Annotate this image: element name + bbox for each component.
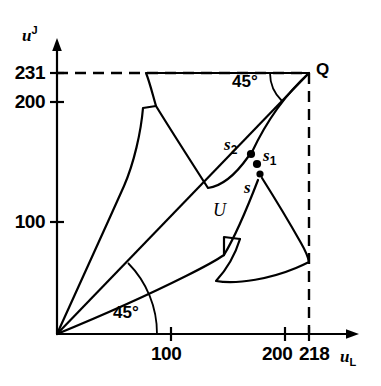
y-tick-label-200: 200 xyxy=(0,91,45,113)
region-upper-right-boundary xyxy=(252,73,309,152)
diagonal-45-line xyxy=(57,73,309,334)
point-label-s: s xyxy=(244,178,251,198)
angle-label-lower: 45° xyxy=(113,303,139,323)
y-tick-label-231: 231 xyxy=(0,62,45,84)
plot-svg xyxy=(0,0,381,386)
point-label-s2: s2 xyxy=(224,135,237,157)
y-axis-label-superscript: J xyxy=(31,24,37,36)
region-lower-right-upper-boundary xyxy=(262,178,309,262)
diagonal-line-group xyxy=(57,73,309,334)
figure-container: uJ uL 231 200 100 100 200 218 Q 45° 45° … xyxy=(0,0,381,386)
angle-label-upper: 45° xyxy=(232,72,258,92)
point-dot-s[interactable] xyxy=(256,170,263,177)
angle-arc-group xyxy=(128,73,282,334)
x-axis-label: uL xyxy=(340,347,356,368)
point-label-s1-base: s xyxy=(263,146,270,165)
point-label-s2-base: s xyxy=(224,135,231,154)
region-lower-left-boundary xyxy=(57,237,240,334)
point-dot-s1[interactable] xyxy=(253,160,261,168)
angle-arc-at-origin xyxy=(128,263,157,334)
angle-arc-at-Q xyxy=(270,73,282,101)
x-tick-label-200: 200 xyxy=(262,343,292,365)
x-axis-label-subscript: L xyxy=(349,356,356,368)
region-label-U: U xyxy=(213,200,226,221)
y-axis-label: uJ xyxy=(22,24,38,46)
axis-group xyxy=(52,38,359,339)
x-tick-label-100: 100 xyxy=(151,343,181,365)
point-label-s-base: s xyxy=(244,178,251,197)
x-tick-label-218: 218 xyxy=(299,343,329,365)
y-axis-arrowhead xyxy=(52,38,62,51)
corner-point-label-Q: Q xyxy=(316,60,329,80)
region-lower-inner-boundary xyxy=(224,180,258,255)
point-dot-s2[interactable] xyxy=(247,150,255,158)
y-tick-label-100: 100 xyxy=(0,211,45,233)
point-label-s1: s1 xyxy=(263,146,276,168)
point-label-s1-subscript: 1 xyxy=(270,154,277,168)
point-label-s2-subscript: 2 xyxy=(231,143,238,157)
marked-points-group xyxy=(247,150,264,178)
x-axis-arrowhead xyxy=(346,329,359,339)
